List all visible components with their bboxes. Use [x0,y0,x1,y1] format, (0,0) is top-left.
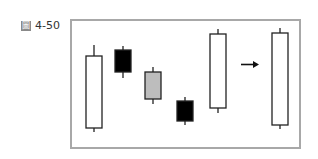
right-arrow-icon [241,61,259,68]
candle-body [272,33,288,125]
candle-5 [210,29,226,113]
candle-body [145,72,161,99]
candle-3 [145,67,161,104]
candle-4 [177,97,193,125]
candlestick-chart [0,0,318,159]
candle-body [210,34,226,108]
candle-body [86,56,102,128]
candle-body [115,50,131,72]
candle-2 [115,46,131,78]
candle-body [177,101,193,121]
candle-6 [272,28,288,129]
candle-1 [86,45,102,132]
